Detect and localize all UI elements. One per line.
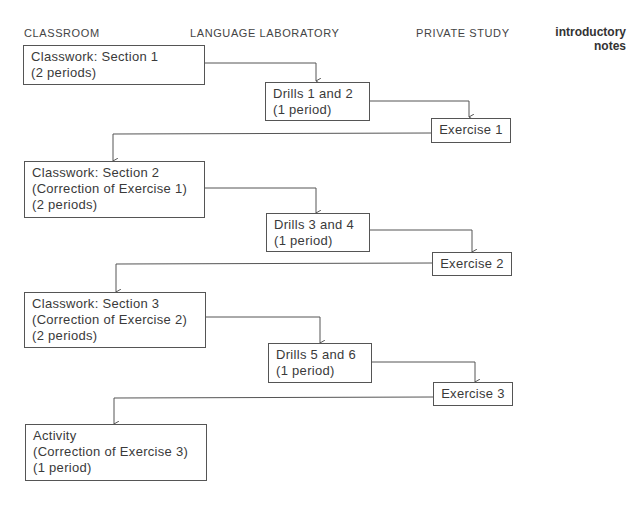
box-title: Classwork: Section 3	[32, 296, 198, 312]
box-duration: (1 period)	[274, 233, 362, 249]
arrow-classwork2-to-drills34	[205, 188, 316, 213]
box-title: Activity	[33, 428, 199, 444]
box-title: Drills 3 and 4	[274, 217, 362, 233]
box-classwork-section-1: Classwork: Section 1 (2 periods)	[23, 45, 205, 85]
box-classwork-section-2: Classwork: Section 2 (Correction of Exer…	[24, 161, 205, 218]
box-duration: (2 periods)	[32, 197, 197, 213]
box-title: Classwork: Section 1	[31, 49, 197, 65]
box-duration: (1 period)	[276, 363, 364, 379]
box-title: Exercise 2	[433, 256, 511, 272]
box-title: Exercise 3	[434, 386, 512, 402]
box-duration: (1 period)	[273, 102, 362, 118]
arrow-classwork3-to-drills56	[206, 317, 320, 343]
box-exercise-2: Exercise 2	[432, 252, 512, 276]
box-drills-3-and-4: Drills 3 and 4 (1 period)	[266, 213, 370, 252]
box-title: Classwork: Section 2	[32, 165, 197, 181]
arrow-drills12-to-exercise1	[370, 101, 469, 117]
box-exercise-1: Exercise 1	[431, 118, 511, 143]
box-exercise-3: Exercise 3	[433, 382, 513, 406]
box-subtitle: (Correction of Exercise 1)	[32, 181, 197, 197]
arrow-classwork1-to-drills12	[205, 63, 316, 81]
arrow-drills56-to-exercise3	[372, 362, 475, 382]
box-duration: (1 period)	[33, 460, 199, 476]
box-classwork-section-3: Classwork: Section 3 (Correction of Exer…	[24, 292, 206, 348]
arrow-exercise3-to-activity	[114, 397, 433, 424]
box-drills-1-and-2: Drills 1 and 2 (1 period)	[265, 82, 370, 121]
box-title: Drills 5 and 6	[276, 347, 364, 363]
arrow-exercise2-to-classwork3	[116, 263, 432, 292]
box-duration: (2 periods)	[31, 65, 197, 81]
arrow-exercise1-to-classwork2	[113, 133, 431, 161]
box-drills-5-and-6: Drills 5 and 6 (1 period)	[268, 343, 372, 383]
box-activity: Activity (Correction of Exercise 3) (1 p…	[25, 424, 207, 481]
box-subtitle: (Correction of Exercise 3)	[33, 444, 199, 460]
box-title: Exercise 1	[432, 122, 510, 138]
arrow-drills34-to-exercise2	[370, 230, 472, 252]
box-title: Drills 1 and 2	[273, 86, 362, 102]
box-duration: (2 periods)	[32, 328, 198, 344]
box-subtitle: (Correction of Exercise 2)	[32, 312, 198, 328]
